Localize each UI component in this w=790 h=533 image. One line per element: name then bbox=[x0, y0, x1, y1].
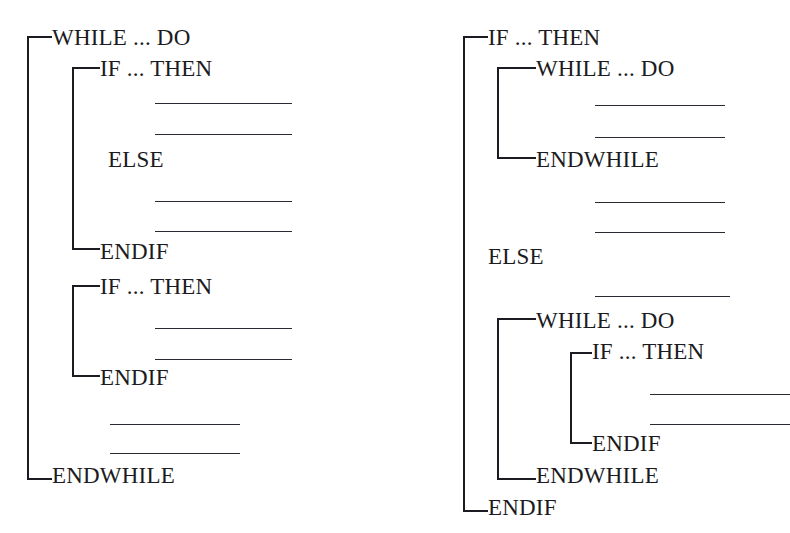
statement-rule bbox=[650, 394, 790, 395]
if-bracket-inner-connector bbox=[570, 352, 592, 444]
statement-rule bbox=[595, 105, 725, 106]
while-bracket-1-connector bbox=[497, 67, 536, 159]
keyword-label: WHILE ... DO bbox=[536, 309, 674, 332]
keyword-label: ENDIF bbox=[488, 496, 557, 519]
keyword-label: IF ... THEN bbox=[592, 340, 704, 363]
statement-rule bbox=[595, 296, 730, 297]
statement-rule bbox=[650, 424, 790, 425]
keyword-label: ENDIF bbox=[592, 432, 661, 455]
right-diagram: IF ... THENWHILE ... DOENDWHILEELSEWHILE… bbox=[0, 0, 790, 533]
keyword-label: ENDWHILE bbox=[536, 148, 659, 171]
keyword-label: ENDWHILE bbox=[536, 464, 659, 487]
keyword-label: ELSE bbox=[488, 245, 544, 268]
figure-canvas: WHILE ... DOIF ... THENELSEENDIFIF ... T… bbox=[0, 0, 790, 533]
statement-rule bbox=[595, 202, 725, 203]
keyword-label: WHILE ... DO bbox=[536, 57, 674, 80]
statement-rule bbox=[595, 232, 725, 233]
while-bracket-2-connector bbox=[497, 318, 536, 480]
statement-rule bbox=[595, 137, 725, 138]
if-bracket-outer-connector bbox=[463, 36, 488, 512]
keyword-label: IF ... THEN bbox=[488, 26, 600, 49]
